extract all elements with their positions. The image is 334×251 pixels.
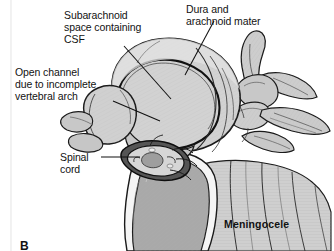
panel-letter: B (20, 240, 29, 251)
meningocele-figure: Subarachnoid space containing CSF Dura a… (0, 0, 334, 251)
meningocele-caption: Meningocele (224, 218, 289, 230)
open-channel-label: Open channel due to incomplete vertebral… (15, 66, 96, 103)
anatomical-illustration (0, 0, 334, 251)
spinal-cord-label: Spinal cord (60, 151, 89, 175)
dura-arachnoid-label: Dura and arachnoid mater (186, 3, 260, 27)
subarachnoid-space-label: Subarachnoid space containing CSF (64, 9, 141, 46)
